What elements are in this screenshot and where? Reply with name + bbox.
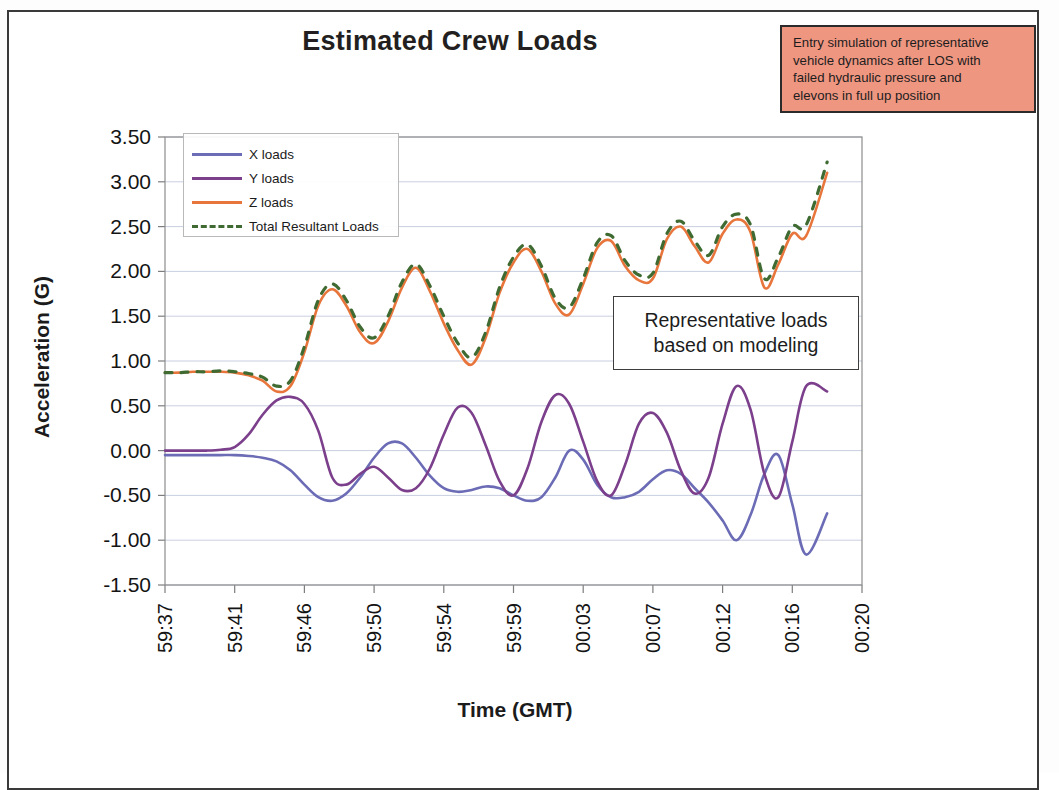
y-tick-label: 2.50 xyxy=(110,215,151,238)
y-tick-label: 2.00 xyxy=(110,259,151,282)
x-tick-label: 00:16 xyxy=(781,603,803,653)
y-tick-label: 3.00 xyxy=(110,170,151,193)
white-note-line-1: Representative loads xyxy=(644,308,827,333)
y-tick-label: -0.50 xyxy=(103,483,151,506)
y-tick-label: 1.50 xyxy=(110,304,151,327)
x-tick-label: 59:37 xyxy=(154,603,176,653)
chart-title: Estimated Crew Loads xyxy=(180,26,720,57)
y-tick-marks xyxy=(158,137,165,585)
x-tick-labels: 59:3759:4159:4659:5059:5459:5900:0300:07… xyxy=(154,603,873,653)
legend-swatch-icon xyxy=(192,225,242,228)
legend-item-x-loads[interactable]: X loads xyxy=(190,142,398,166)
x-tick-label: 59:54 xyxy=(433,603,455,653)
legend-swatch-icon xyxy=(192,177,242,180)
x-tick-label: 59:59 xyxy=(503,603,525,653)
representative-loads-note: Representative loads based on modeling xyxy=(613,296,859,370)
legend-item-y-loads[interactable]: Y loads xyxy=(190,166,398,190)
x-tick-label: 00:20 xyxy=(851,603,873,653)
red-note-line-4: elevons in full up position xyxy=(793,87,1025,105)
chart-legend: X loadsY loadsZ loadsTotal Resultant Loa… xyxy=(183,133,399,237)
legend-swatch-icon xyxy=(192,201,242,204)
legend-item-z-loads[interactable]: Z loads xyxy=(190,190,398,214)
y-tick-label: -1.50 xyxy=(103,573,151,596)
x-tick-label: 59:50 xyxy=(363,603,385,653)
entry-simulation-note: Entry simulation of representative vehic… xyxy=(780,25,1036,113)
series-line-y-loads xyxy=(165,383,827,498)
y-tick-label: -1.00 xyxy=(103,528,151,551)
legend-label: X loads xyxy=(249,147,294,162)
x-tick-marks xyxy=(165,585,862,593)
white-note-line-2: based on modeling xyxy=(654,333,819,358)
x-tick-label: 00:12 xyxy=(712,603,734,653)
legend-label: Y loads xyxy=(249,171,294,186)
y-tick-labels: 3.503.002.502.001.501.000.500.00-0.50-1.… xyxy=(103,125,151,596)
legend-item-total-resultant-loads[interactable]: Total Resultant Loads xyxy=(190,214,398,238)
x-tick-label: 59:41 xyxy=(224,603,246,653)
y-tick-label: 3.50 xyxy=(110,125,151,148)
x-tick-label: 00:03 xyxy=(572,603,594,653)
y-tick-label: 0.50 xyxy=(110,394,151,417)
legend-label: Z loads xyxy=(249,195,293,210)
y-tick-label: 1.00 xyxy=(110,349,151,372)
y-axis-title: Acceleration (G) xyxy=(30,227,54,487)
y-tick-label: 0.00 xyxy=(110,439,151,462)
x-tick-label: 59:46 xyxy=(293,603,315,653)
x-axis-title: Time (GMT) xyxy=(165,698,865,722)
x-tick-label: 00:07 xyxy=(642,603,664,653)
legend-label: Total Resultant Loads xyxy=(249,219,379,234)
legend-swatch-icon xyxy=(192,153,242,156)
red-note-line-3: failed hydraulic pressure and xyxy=(793,69,1025,87)
red-note-line-2: vehicle dynamics after LOS with xyxy=(793,52,1025,70)
series-line-x-loads xyxy=(165,442,827,555)
red-note-line-1: Entry simulation of representative xyxy=(793,34,1025,52)
